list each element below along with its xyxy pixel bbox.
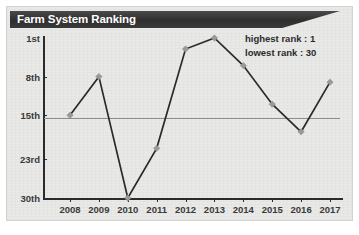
series-line (70, 38, 330, 198)
data-point-marker (182, 46, 188, 52)
chart-figure: Farm System Ranking 1st8th15th23rd30th 2… (0, 0, 359, 235)
legend-lowest-rank: lowest rank : 30 (245, 47, 316, 58)
series-markers (67, 35, 333, 201)
legend-highest-rank: highest rank : 1 (245, 33, 315, 44)
